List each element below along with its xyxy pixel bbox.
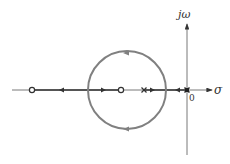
arrow-real-mid-icon <box>101 88 106 93</box>
real-axis-label: σ <box>214 83 222 97</box>
arrow-circle-bottom-icon <box>123 127 129 132</box>
arrow-real-pole-right-icon <box>150 88 155 93</box>
arrow-real-near-origin-icon <box>175 88 180 93</box>
zero-marker-icon <box>29 87 34 92</box>
imaginary-axis-label: jω <box>178 8 190 21</box>
zero-marker-icon <box>118 87 123 92</box>
pole-origin-marker-icon <box>185 88 190 93</box>
root-locus-diagram: jω σ 0 <box>0 0 230 164</box>
origin-label: 0 <box>189 93 195 103</box>
arrow-real-left-icon <box>59 88 64 93</box>
